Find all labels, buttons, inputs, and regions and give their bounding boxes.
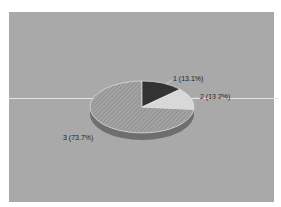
pie-chart <box>9 12 274 202</box>
slice-label-3: 3 (73.7%) <box>63 134 93 141</box>
slice-label-1: 1 (13.1%) <box>173 75 203 82</box>
leader-line-1 <box>166 80 172 84</box>
slice-label-2: 2 (13.2%) <box>200 93 230 100</box>
chart-panel: 1 (13.1%) 2 (13.2%) 3 (73.7%) <box>9 12 274 202</box>
